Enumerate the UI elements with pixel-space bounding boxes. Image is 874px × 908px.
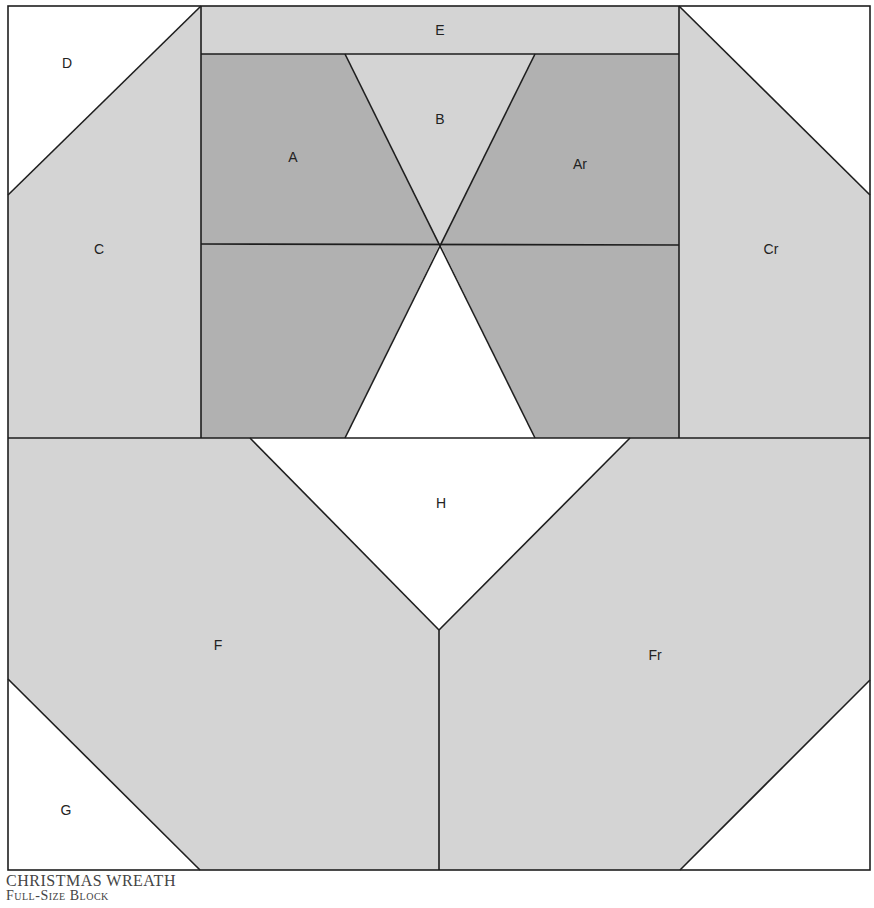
label-c: C — [94, 241, 104, 257]
diagram-subtitle: Full-Size Block — [6, 888, 176, 903]
diagram-title: CHRISTMAS WREATH — [6, 873, 176, 888]
label-e: E — [435, 22, 444, 38]
label-fr: Fr — [648, 647, 662, 663]
label-b: B — [435, 111, 444, 127]
label-a: A — [288, 149, 298, 165]
label-ar: Ar — [573, 156, 587, 172]
label-cr: Cr — [764, 241, 779, 257]
label-f: F — [214, 637, 223, 653]
label-d: D — [62, 55, 72, 71]
quilt-block-diagram: E D B A Ar C Cr H F Fr G — [0, 0, 874, 874]
caption: CHRISTMAS WREATH Full-Size Block — [6, 873, 176, 903]
label-h: H — [436, 495, 446, 511]
label-g: G — [61, 802, 72, 818]
